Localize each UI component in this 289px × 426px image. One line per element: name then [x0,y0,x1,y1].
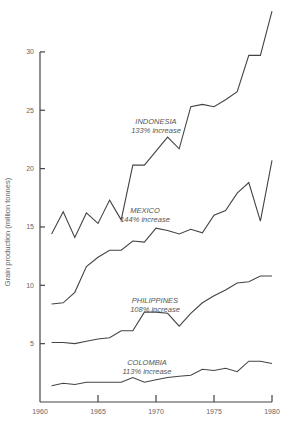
y-tick-label: 20 [26,165,34,172]
series-increase-colombia: 113% increase [122,367,171,376]
x-tick-label: 1980 [264,408,280,415]
y-tick-label: 10 [26,282,34,289]
x-tick-label: 1965 [90,408,106,415]
series-labels: INDONESIA133% increaseMEXICO144% increas… [120,117,181,376]
x-tick-label: 1960 [32,408,48,415]
x-tick-label: 1975 [206,408,222,415]
y-ticks: 51015202530 [26,48,45,347]
series-label-philippines: PHILIPPINES [132,296,178,305]
axes [40,52,272,402]
y-tick-label: 30 [26,48,34,55]
y-tick-label: 15 [26,223,34,230]
series-increase-philippines: 108% increase [130,305,180,314]
x-ticks: 19601965197019751980 [32,395,280,415]
y-tick-label: 5 [30,340,34,347]
y-tick-label: 25 [26,107,34,114]
series-lines [52,11,272,386]
series-label-indonesia: INDONESIA [135,117,176,126]
series-increase-indonesia: 133% increase [131,126,181,135]
x-tick-label: 1970 [148,408,164,415]
series-increase-mexico: 144% increase [120,215,170,224]
series-label-mexico: MEXICO [130,206,160,215]
grain-production-chart: 51015202530 19601965197019751980 Grain p… [0,0,289,426]
series-label-colombia: COLOMBIA [127,358,167,367]
y-axis-title: Grain production (million tonnes) [3,177,12,286]
